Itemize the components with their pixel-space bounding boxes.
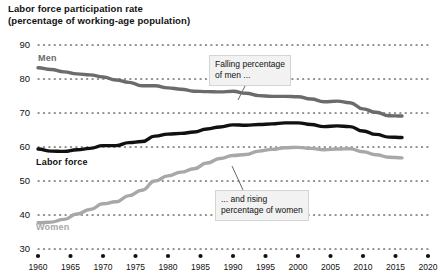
series-label-women: Women bbox=[36, 222, 69, 232]
x-axis-tick-label: 1995 bbox=[251, 262, 281, 272]
x-axis-tick-label: 2015 bbox=[381, 262, 411, 272]
chart-container: Labor force participation rate (percenta… bbox=[0, 0, 440, 274]
x-axis-tick-label: 2010 bbox=[348, 262, 378, 272]
y-axis-tick-label: 90 bbox=[8, 39, 30, 50]
x-axis-tick-label: 1970 bbox=[88, 262, 118, 272]
x-axis-tick-label: 2020 bbox=[413, 262, 440, 272]
x-axis-tick-dot bbox=[263, 254, 267, 258]
x-axis-tick-label: 1980 bbox=[153, 262, 183, 272]
x-axis-tick-dot bbox=[68, 254, 72, 258]
men-annotation-line2: of men ... bbox=[215, 70, 285, 81]
chart-plot-area bbox=[0, 0, 440, 274]
y-axis-tick-label: 70 bbox=[8, 107, 30, 118]
x-axis-tick-label: 1985 bbox=[186, 262, 216, 272]
women-annotation: ... and rising percentage of women bbox=[215, 190, 309, 221]
x-axis-tick-dot bbox=[296, 254, 300, 258]
series-label-men: Men bbox=[38, 53, 57, 63]
x-axis-tick-dot bbox=[101, 254, 105, 258]
x-axis-tick-label: 2005 bbox=[316, 262, 346, 272]
y-axis-tick-label: 80 bbox=[8, 73, 30, 84]
men-annotation: Falling percentage of men ... bbox=[209, 55, 291, 86]
y-axis-tick-label: 40 bbox=[8, 209, 30, 220]
x-axis-tick-dot bbox=[328, 254, 332, 258]
x-axis-tick-dot bbox=[426, 254, 430, 258]
x-axis-tick-label: 1990 bbox=[218, 262, 248, 272]
x-axis-tick-label: 1965 bbox=[56, 262, 86, 272]
annotation-leader-line bbox=[232, 166, 243, 190]
x-axis-tick-dot bbox=[198, 254, 202, 258]
x-axis-tick-dot bbox=[36, 254, 40, 258]
x-axis-tick-dot bbox=[133, 254, 137, 258]
women-annotation-line2: percentage of women bbox=[221, 205, 303, 216]
x-axis-tick-dot bbox=[231, 254, 235, 258]
x-axis-tick-label: 1960 bbox=[23, 262, 53, 272]
x-axis-tick-dot bbox=[166, 254, 170, 258]
series-label-labor-force: Labor force bbox=[36, 157, 88, 167]
x-axis-tick-dot bbox=[393, 254, 397, 258]
x-axis-tick-label: 1975 bbox=[121, 262, 151, 272]
men-annotation-line1: Falling percentage bbox=[215, 59, 285, 70]
x-axis-tick-label: 2000 bbox=[283, 262, 313, 272]
x-axis-tick-dot bbox=[361, 254, 365, 258]
y-axis-tick-label: 30 bbox=[8, 243, 30, 254]
y-axis-tick-label: 50 bbox=[8, 175, 30, 186]
women-annotation-line1: ... and rising bbox=[221, 194, 303, 205]
y-axis-tick-label: 60 bbox=[8, 141, 30, 152]
